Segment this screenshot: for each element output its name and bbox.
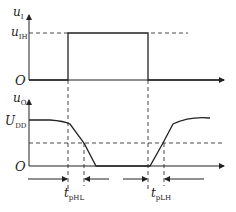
tphl-label: tpHL xyxy=(64,186,84,202)
output-origin-label: O xyxy=(15,159,26,174)
output-y-axis-label: uO xyxy=(13,91,27,107)
input-origin-label: O xyxy=(15,73,26,88)
tplh-label: tpLH xyxy=(151,186,171,202)
input-y-axis-label: uI xyxy=(13,5,24,21)
delay-annotations: tpHL tpLH xyxy=(28,179,204,202)
output-waveform xyxy=(29,118,210,166)
input-high-level-label: uIH xyxy=(11,25,28,41)
input-panel: uI uIH O xyxy=(11,5,224,88)
propagation-delay-timing-diagram: uI uIH O uO UDD O tpHL tpLH xyxy=(0,0,236,212)
output-high-level-label: UDD xyxy=(5,114,27,130)
input-pulse xyxy=(29,33,224,80)
output-panel: uO UDD O xyxy=(5,91,224,186)
